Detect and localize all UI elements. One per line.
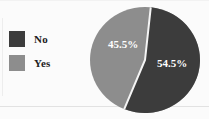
pie-chart-svg: 54.5% 45.5% <box>89 6 201 114</box>
scan-edge-top <box>0 0 209 1</box>
chart-legend: No Yes <box>9 27 81 75</box>
legend-item-yes: Yes <box>9 51 81 75</box>
legend-label-yes: Yes <box>34 58 51 69</box>
legend-label-no: No <box>34 34 48 45</box>
chart-figure: No Yes 54.5% 45.5% <box>0 0 209 119</box>
pie-chart: 54.5% 45.5% <box>89 6 201 114</box>
scan-edge-left <box>2 18 3 96</box>
pie-label-no: 54.5% <box>157 57 187 69</box>
pie-label-yes: 45.5% <box>108 38 138 50</box>
legend-swatch-no-icon <box>9 31 25 47</box>
legend-swatch-yes-icon <box>9 55 25 71</box>
legend-item-no: No <box>9 27 81 51</box>
